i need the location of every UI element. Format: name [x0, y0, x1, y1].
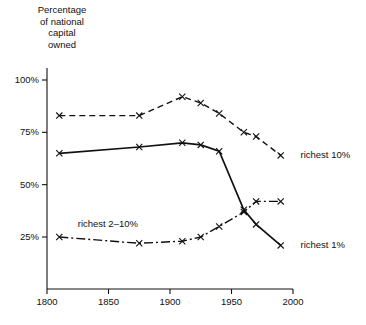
capital-ownership-line-chart: Percentageof nationalcapitalowned 25%50%…	[0, 0, 366, 325]
chart-title-line: owned	[48, 39, 76, 50]
data-point-marker	[253, 133, 259, 139]
y-tick-label: 50%	[20, 179, 40, 190]
x-tick-label: 1950	[221, 296, 242, 307]
data-point-marker	[198, 100, 204, 106]
chart-title: Percentageof nationalcapitalowned	[38, 4, 87, 50]
chart-title-line: Percentage	[38, 4, 87, 15]
data-point-marker	[278, 152, 284, 158]
series-labels: richest 10%richest 1%richest 2–10%	[78, 149, 351, 250]
chart-axes	[47, 68, 293, 289]
y-tick-label: 25%	[20, 231, 40, 242]
series-inline-label: richest 2–10%	[78, 218, 139, 229]
data-point-marker	[136, 240, 142, 246]
x-tick-label: 1850	[98, 296, 119, 307]
data-point-marker	[278, 242, 284, 248]
data-point-marker	[278, 198, 284, 204]
data-point-marker	[136, 113, 142, 119]
data-point-marker	[253, 221, 259, 227]
data-point-marker	[241, 129, 247, 135]
series-inline-label: richest 1%	[301, 239, 346, 250]
x-tick-label: 2000	[282, 296, 303, 307]
data-point-marker	[216, 110, 222, 116]
x-axis-ticks: 18001850190019502000	[36, 289, 303, 307]
series-inline-label: richest 10%	[301, 149, 351, 160]
series-line	[59, 143, 280, 246]
series-line	[59, 97, 280, 156]
chart-figure: Percentageof nationalcapitalowned 25%50%…	[0, 0, 366, 325]
y-tick-label: 100%	[15, 74, 40, 85]
y-axis-ticks: 25%50%75%100%	[15, 74, 47, 242]
x-tick-label: 1900	[159, 296, 180, 307]
data-point-marker	[179, 94, 185, 100]
x-tick-label: 1800	[36, 296, 57, 307]
chart-title-line: of national	[40, 16, 84, 27]
data-point-marker	[216, 223, 222, 229]
y-tick-label: 75%	[20, 126, 40, 137]
chart-title-line: capital	[48, 27, 75, 38]
